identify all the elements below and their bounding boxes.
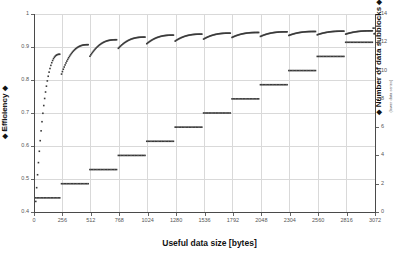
- arrow-up-icon: ◆: [1, 134, 8, 139]
- y-axis-left-tick-label: 0.9: [2, 44, 29, 50]
- y-axis-left-tickmark: [31, 146, 34, 147]
- x-axis-tick-label: 1792: [219, 218, 247, 224]
- x-axis-tickmark: [233, 213, 234, 216]
- y-axis-right-subtitle: (lower data series): [388, 80, 393, 113]
- y-axis-right-tick-label: 2: [381, 181, 401, 187]
- x-axis-tick-label: 3072: [361, 218, 389, 224]
- y-axis-left-tickmark: [31, 80, 34, 81]
- x-axis-tickmark: [205, 213, 206, 216]
- plot-area: [34, 14, 375, 212]
- x-axis-tickmark: [347, 213, 348, 216]
- x-axis-tick-label: 2304: [276, 218, 304, 224]
- y-axis-right-title-text: Number of data subblocks: [374, 7, 383, 107]
- y-axis-right-tickmark: [376, 155, 379, 156]
- x-axis-tick-label: 1280: [162, 218, 190, 224]
- y-axis-right-tickmark: [376, 212, 379, 213]
- y-axis-left-subtitle: (upper data series): [2, 99, 7, 133]
- y-axis-right-tick-label: 0: [381, 209, 401, 215]
- y-axis-right-tickmark: [376, 127, 379, 128]
- x-axis-tickmark: [176, 213, 177, 216]
- y-axis-left-tickmark: [31, 14, 34, 15]
- y-axis-left-tickmark: [31, 47, 34, 48]
- y-axis-right-tick-label: 12: [381, 39, 401, 45]
- x-axis-tick-label: 1536: [191, 218, 219, 224]
- y-axis-left-tickmark: [31, 179, 34, 180]
- data-markers: [34, 14, 375, 212]
- y-axis-left-tick-label: 0.4: [2, 209, 29, 215]
- arrow-down-right-icon: ◆: [375, 0, 382, 5]
- x-axis-tickmark: [34, 213, 35, 216]
- y-axis-right-tickmark: [376, 184, 379, 185]
- y-axis-left-tick-label: 0.6: [2, 143, 29, 149]
- x-axis-tickmark: [375, 213, 376, 216]
- x-axis-tick-label: 256: [48, 218, 76, 224]
- y-axis-right-tick-label: 14: [381, 11, 401, 17]
- x-axis-tick-label: 2816: [333, 218, 361, 224]
- x-axis-tick-label: 512: [77, 218, 105, 224]
- y-axis-right-tick-label: 6: [381, 124, 401, 130]
- x-axis-tick-label: 768: [105, 218, 133, 224]
- y-axis-left-tick-label: 1: [2, 11, 29, 17]
- x-axis-tickmark: [318, 213, 319, 216]
- x-axis-tick-label: 1024: [134, 218, 162, 224]
- y-axis-left-tick-label: 0.8: [2, 77, 29, 83]
- x-axis-tick-label: 2560: [304, 218, 332, 224]
- x-axis-tick-label: 2048: [247, 218, 275, 224]
- arrow-up-right-icon: ◆: [375, 110, 382, 115]
- x-axis-tickmark: [290, 213, 291, 216]
- x-axis-tickmark: [148, 213, 149, 216]
- x-axis-title: Useful data size [bytes]: [0, 238, 419, 248]
- x-axis-tick-label: 0: [20, 218, 48, 224]
- y-axis-left-tickmark: [31, 113, 34, 114]
- x-axis-tickmark: [261, 213, 262, 216]
- y-axis-right-title: ◆ Number of data subblocks ◆: [374, 0, 383, 115]
- y-axis-left-line: [34, 14, 35, 212]
- y-axis-right-tick-label: 4: [381, 152, 401, 158]
- chart-root: 0.40.50.60.70.80.91024681012140256512768…: [0, 0, 419, 255]
- x-axis-tickmark: [119, 213, 120, 216]
- x-axis-tickmark: [62, 213, 63, 216]
- y-axis-right-tick-label: 10: [381, 68, 401, 74]
- arrow-down-icon: ◆: [1, 86, 8, 91]
- y-axis-left-tick-label: 0.5: [2, 176, 29, 182]
- x-axis-tickmark: [91, 213, 92, 216]
